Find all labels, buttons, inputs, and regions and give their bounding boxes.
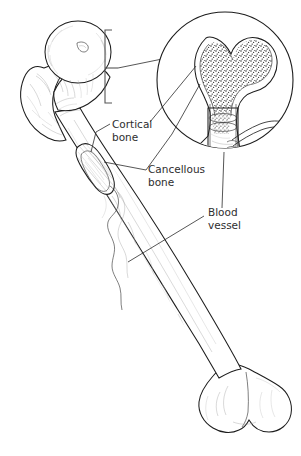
- label-blood-vessel: Blood vessel: [208, 206, 241, 231]
- blood-vessel-leader-callout: [222, 152, 224, 208]
- magnified-cross-section: [157, 12, 293, 150]
- femur-shaft: [55, 108, 241, 378]
- label-cortical-bone: Cortical bone: [112, 118, 156, 143]
- distal-condyles: [199, 364, 292, 432]
- blood-vessel-line1: Blood: [208, 206, 238, 218]
- diagram-canvas: Cortical bone Cancellous bone Blood vess…: [0, 0, 301, 456]
- blood-vessel-line2: vessel: [208, 219, 241, 231]
- femur-diagram: Cortical bone Cancellous bone Blood vess…: [0, 0, 301, 456]
- cut-shaft: [208, 104, 238, 150]
- cancellous-bone-line1: Cancellous: [148, 163, 205, 175]
- cortical-bone-line1: Cortical: [112, 118, 152, 130]
- svg-text:Cancellous bone: Cancellous bone: [148, 163, 208, 188]
- svg-text:Blood vessel: Blood vessel: [208, 206, 241, 231]
- cancellous-bone-line2: bone: [148, 176, 174, 188]
- label-cancellous-bone: Cancellous bone: [148, 163, 208, 188]
- cortical-bone-line2: bone: [112, 131, 138, 143]
- svg-text:Cortical bone: Cortical bone: [112, 118, 156, 143]
